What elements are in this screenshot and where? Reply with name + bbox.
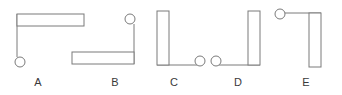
figure-label-d: D: [228, 76, 248, 88]
figure-d: [211, 11, 260, 66]
figure-label-c: C: [164, 76, 184, 88]
figure-label-a: A: [28, 76, 48, 88]
figure-e: [275, 9, 321, 67]
figure-c-bar: [157, 11, 169, 65]
figure-panel: A B C D E: [0, 0, 342, 95]
figure-d-ball: [211, 56, 221, 66]
figure-a-bar: [17, 14, 84, 26]
figure-a-ball: [15, 57, 25, 67]
figure-label-e: E: [296, 76, 316, 88]
figure-e-ball: [275, 9, 285, 19]
figure-e-bar: [309, 13, 321, 67]
figure-b-ball: [125, 14, 135, 24]
figure-c-ball: [195, 56, 205, 66]
figure-b-bar: [72, 52, 134, 64]
figure-label-b: B: [105, 76, 125, 88]
figure-c: [157, 11, 205, 66]
figure-d-bar: [248, 11, 260, 65]
